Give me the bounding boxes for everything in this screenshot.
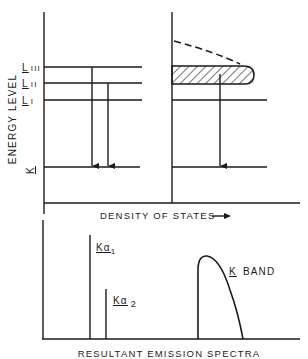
label-Kalpha1: Kα1 [96,242,117,256]
x-axis-label: DENSITY OF STATES [100,210,215,221]
hatched-band [172,66,254,84]
arrow-right-icon [224,213,231,219]
label-LIII: LIII [22,62,41,73]
label-K-band: KBAND [229,266,275,277]
dashed-density-curve [174,41,240,64]
y-axis-label: ENERGY LEVEL [7,74,18,164]
energy-level-diagram: LIII LII LI K ENERGY LEVEL DENSITY OF ST… [0,0,308,359]
label-LI: LI [22,95,34,106]
label-LII: LII [22,78,38,89]
bottom-label: RESULTANT EMISSION SPECTRA [78,348,261,359]
label-K: K [25,166,36,174]
label-Kalpha2: Kα2 [113,295,137,309]
